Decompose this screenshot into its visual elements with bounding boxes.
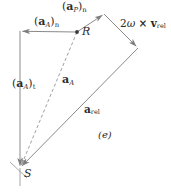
point-label-R: R: [82, 26, 90, 37]
point-R-dot: [75, 30, 79, 34]
label-a-P-n: (aP)n: [62, 1, 87, 13]
point-label-S: S: [24, 168, 32, 179]
vector-a-rel-line: [22, 48, 138, 166]
vector-a-A-line: [21, 32, 77, 165]
label-a-A-t: (aA)t: [12, 78, 35, 90]
label-coriolis-term: 2ω × vrel: [120, 18, 166, 30]
label-a-A: aA: [62, 74, 74, 86]
vector-a-A-n-line: [23, 31, 78, 32]
figure-caption: (e): [98, 130, 112, 140]
label-a-rel: arel: [84, 104, 100, 116]
acceleration-vector-diagram: (aA)n (aP)n 2ω × vrel (aA)t aA arel R S …: [0, 0, 171, 194]
label-a-A-n: (aA)n: [34, 16, 59, 28]
